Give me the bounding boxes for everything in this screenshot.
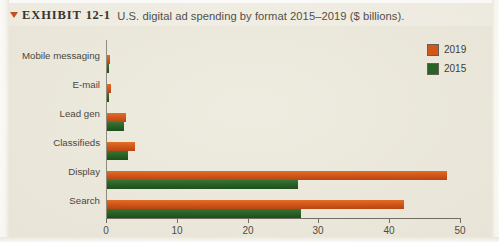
bar-2019-e-mail <box>107 84 111 93</box>
y-axis-label-mobile-messaging: Mobile messaging <box>22 50 100 61</box>
x-axis-line <box>106 218 460 219</box>
y-axis-label-email: E-mail <box>73 79 100 90</box>
x-axis-tick-label-30: 30 <box>312 225 323 236</box>
bar-2015-classifieds <box>107 151 128 160</box>
exhibit-title-text: U.S. digital ad spending by format 2015–… <box>117 10 404 22</box>
bar-2019-mobile-messaging <box>107 55 110 64</box>
exhibit-number: 12-1 <box>86 8 111 22</box>
bar-2015-lead-gen <box>107 122 124 131</box>
plot-area <box>106 40 460 218</box>
x-axis-tick-30 <box>318 218 319 223</box>
y-axis-label-display: Display <box>68 166 100 177</box>
triangle-down-marker-icon <box>10 12 18 18</box>
bar-2015-display <box>107 180 298 189</box>
x-axis-tick-40 <box>389 218 390 223</box>
y-axis-label-search: Search <box>69 195 100 206</box>
x-axis-tick-label-40: 40 <box>383 225 394 236</box>
y-axis-category-labels: Mobile messaging E-mail Lead gen Classif… <box>9 26 100 237</box>
x-axis-tick-label-10: 10 <box>171 225 182 236</box>
x-axis-tick-50 <box>460 218 461 223</box>
exhibit-label: EXHIBIT <box>22 8 82 22</box>
y-axis-label-classifieds: Classifieds <box>53 137 100 148</box>
exhibit-figure: EXHIBIT12-1U.S. digital ad spending by f… <box>0 0 499 242</box>
x-axis-tick-20 <box>248 218 249 223</box>
legend: 2019 2015 <box>427 42 489 80</box>
y-axis-label-lead-gen: Lead gen <box>60 108 100 119</box>
bar-2019-display <box>107 171 447 180</box>
legend-item-2015[interactable]: 2015 <box>427 61 489 76</box>
x-axis-tick-10 <box>177 218 178 223</box>
chart-panel: Mobile messaging E-mail Lead gen Classif… <box>9 26 492 237</box>
bar-2019-classifieds <box>107 142 135 151</box>
legend-item-2019[interactable]: 2019 <box>427 42 489 57</box>
page-right-margin <box>492 0 499 242</box>
page-bottom-margin <box>0 237 499 242</box>
page-left-margin <box>0 0 9 242</box>
bar-2015-mobile-messaging <box>107 64 109 73</box>
legend-swatch-2019 <box>427 44 439 56</box>
x-axis-tick-label-50: 50 <box>454 225 465 236</box>
x-axis-tick-label-0: 0 <box>103 225 109 236</box>
bar-2015-e-mail <box>107 93 109 102</box>
x-axis-tick-0 <box>106 218 107 223</box>
exhibit-caption: EXHIBIT12-1U.S. digital ad spending by f… <box>10 6 490 24</box>
bar-2019-search <box>107 200 404 209</box>
x-axis-tick-label-20: 20 <box>242 225 253 236</box>
legend-swatch-2015 <box>427 63 439 75</box>
legend-label-2015: 2015 <box>444 64 466 74</box>
page-top-margin <box>0 0 499 3</box>
bar-2015-search <box>107 209 301 218</box>
legend-label-2019: 2019 <box>444 45 466 55</box>
bar-2019-lead-gen <box>107 113 126 122</box>
